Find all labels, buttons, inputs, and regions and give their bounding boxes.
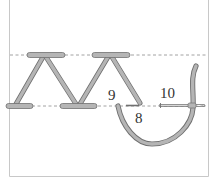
thread-wrap-on-needle (188, 103, 196, 108)
diagonal-stitches (16, 57, 140, 104)
stitch-diagram: 9 8 10 (0, 0, 212, 181)
needle-icon (160, 103, 204, 108)
bottom-bar-stitch (6, 104, 33, 109)
top-bar-stitch (27, 53, 65, 58)
top-bar-stitch (92, 53, 130, 58)
bottom-bar-stitch (60, 104, 97, 109)
point-label-10: 10 (160, 85, 175, 101)
point-label-8: 8 (135, 110, 143, 126)
point-label-9: 9 (108, 87, 116, 103)
